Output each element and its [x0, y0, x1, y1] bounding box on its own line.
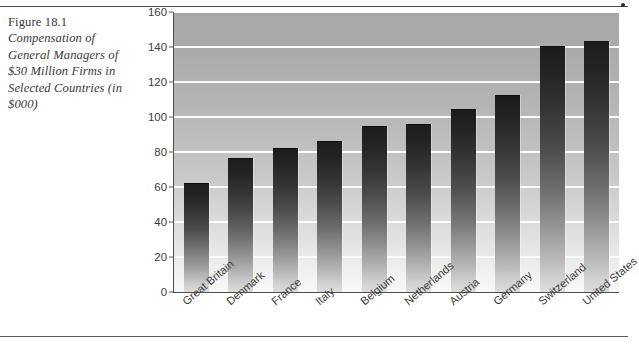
figure-caption: Figure 18.1 Compensation of General Mana… [8, 14, 136, 112]
bar-series [174, 12, 619, 292]
bar[interactable] [228, 158, 253, 292]
figure-number: Figure 18.1 [8, 15, 67, 29]
y-tick-label: 40 [154, 216, 167, 228]
y-tick-label: 0 [161, 286, 167, 298]
bar[interactable] [362, 126, 387, 292]
y-tick-label: 80 [154, 146, 167, 158]
top-rule [0, 6, 628, 7]
bar[interactable] [317, 141, 342, 292]
y-tick-label: 160 [148, 6, 167, 18]
bar[interactable] [540, 46, 565, 292]
y-tick-label: 60 [154, 181, 167, 193]
bar[interactable] [584, 41, 609, 292]
bar[interactable] [273, 148, 298, 293]
bar[interactable] [495, 95, 520, 292]
y-tick-label: 100 [148, 111, 167, 123]
x-axis-labels: Great BritainDenmarkFranceItalyBelgiumNe… [174, 294, 619, 351]
y-tick-label: 140 [148, 41, 167, 53]
bar-chart: 160140120100806040200 Great BritainDenma… [137, 12, 621, 312]
bar[interactable] [406, 124, 431, 292]
plot-area [174, 12, 619, 292]
bar[interactable] [451, 109, 476, 292]
y-tick-label: 20 [154, 251, 167, 263]
y-axis: 160140120100806040200 [137, 12, 173, 293]
y-tick-label: 120 [148, 76, 167, 88]
figure-caption-text: Compensation of General Managers of $30 … [8, 31, 122, 111]
